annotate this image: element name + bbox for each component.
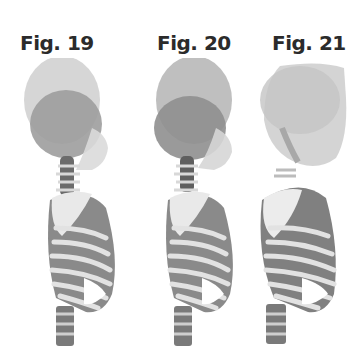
ribcage-icon — [261, 187, 336, 312]
skeleton-figure-19 — [10, 58, 130, 348]
skull-icon — [24, 58, 108, 170]
ribcage-icon — [48, 192, 115, 312]
spine-neck-icon — [274, 170, 296, 176]
skull-icon — [260, 63, 346, 166]
spine-lower-icon — [266, 304, 286, 344]
spine-lower-icon — [56, 306, 74, 346]
figure-label-21: Fig. 21 — [272, 31, 346, 55]
skeleton-figure-21 — [240, 58, 355, 348]
figure-label-20: Fig. 20 — [157, 31, 231, 55]
spine-neck-icon — [174, 156, 198, 192]
figure-label-19: Fig. 19 — [20, 31, 94, 55]
skeleton-figure-20 — [128, 58, 248, 348]
ribcage-icon — [166, 192, 233, 312]
spine-lower-icon — [174, 306, 192, 346]
skull-icon — [154, 58, 232, 170]
spine-neck-icon — [56, 156, 80, 196]
